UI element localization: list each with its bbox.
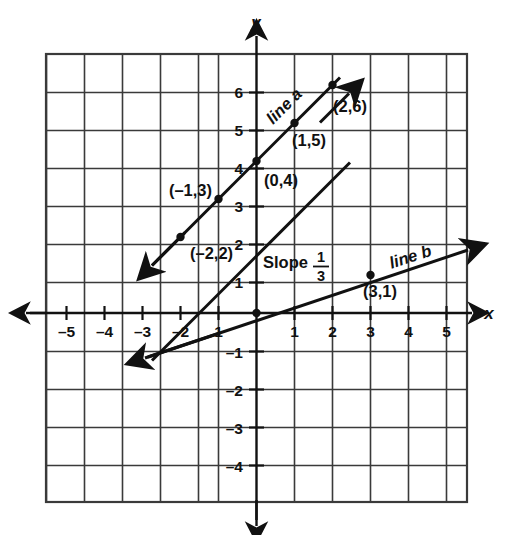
coordinate-plane-figure: –5 –4 –3 –2 1 1 2 3 4 5 6 5 4 3 2 1 –1 –…: [0, 0, 508, 535]
point-b-3-1: [366, 271, 374, 279]
point-label-a-m2-2: (–2,2): [190, 244, 233, 262]
x-axis-label: x: [483, 304, 495, 323]
point-label-a-0-4: (0,4): [264, 171, 298, 189]
point-a-2-6: [328, 81, 336, 89]
x-tick-label: 3: [366, 323, 375, 340]
axes: [26, 36, 472, 526]
point-a-0-4: [252, 157, 260, 165]
y-tick-label: –1: [226, 344, 244, 361]
graph-svg: –5 –4 –3 –2 1 1 2 3 4 5 6 5 4 3 2 1 –1 –…: [0, 0, 508, 535]
point-label-b-3-1: (3,1): [363, 282, 397, 300]
slope-denominator: 3: [317, 268, 325, 284]
y-tick-label: 5: [234, 122, 243, 139]
slope-numerator: 1: [317, 249, 325, 265]
slope-word: Slope: [263, 253, 308, 271]
x-tick-label: –5: [58, 323, 76, 340]
x-tick-labels: –5 –4 –3 –2 1 1 2 3 4 5: [58, 323, 451, 340]
x-tick-label: 5: [442, 323, 451, 340]
y-tick-label: 3: [234, 198, 243, 215]
y-tick-label: –4: [226, 458, 244, 475]
slope-annotation: Slope 1 3: [263, 249, 329, 284]
y-tick-label: –3: [226, 420, 244, 437]
x-tick-label: –4: [96, 323, 114, 340]
point-b-origin: [252, 309, 260, 317]
point-label-a-1-5: (1,5): [292, 131, 326, 149]
y-axis-label: y: [250, 13, 262, 32]
x-tick-label: –3: [134, 323, 152, 340]
line-b-label-group: line b: [387, 241, 434, 271]
line-b-label: line b: [387, 241, 434, 271]
point-a-1-5: [290, 119, 298, 127]
y-tick-label: –2: [226, 382, 243, 399]
line-a: [152, 78, 350, 361]
x-tick-label: 1: [290, 323, 299, 340]
x-tick-label: 2: [328, 323, 337, 340]
point-label-a-2-6: (2,6): [333, 97, 367, 115]
point-a-m2-2: [176, 233, 184, 241]
point-a-m1-3: [214, 195, 222, 203]
y-tick-label: 6: [234, 84, 243, 101]
x-tick-label: 4: [404, 323, 413, 340]
y-tick-label: 2: [234, 236, 243, 253]
point-label-a-m1-3: (–1,3): [169, 181, 212, 199]
